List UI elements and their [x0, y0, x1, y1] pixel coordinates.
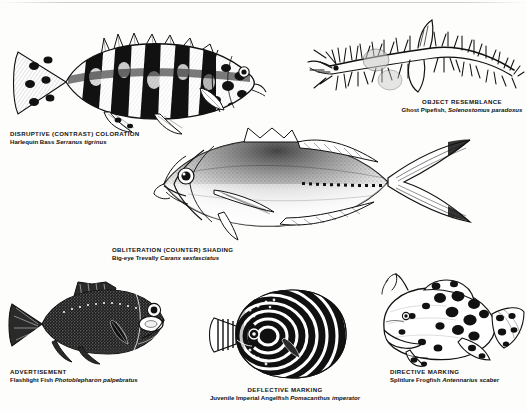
caption-species-pipefish: Ghost Pipefish, Solenostomus paradoxus: [400, 106, 524, 114]
figure-harlequin-bass: [4, 22, 272, 130]
caption-big-eye-trevally: OBLITERATION (COUNTER) SHADING Big-eye T…: [112, 246, 233, 262]
caption-title-frogfish: DIRECTIVE MARKING: [390, 368, 499, 376]
caption-title-angelfish: DEFLECTIVE MARKING: [190, 386, 380, 394]
caption-species-flashlight: Flashlight Fish Photoblepharon palpebrat…: [10, 376, 138, 384]
caption-species-angelfish: Juvenile Imperial Angelfish Pomacanthus …: [190, 394, 380, 402]
caption-flashlight-fish: ADVERTISEMENT Flashlight Fish Photobleph…: [10, 368, 138, 384]
caption-species-trevally: Big-eye Trevally Caranx sexfasciatus: [112, 254, 233, 262]
caption-harlequin-bass: DISRUPTIVE (CONTRAST) COLORATION Harlequ…: [10, 130, 140, 146]
caption-species-bass: Harlequin Bass Serranus tigrinus: [10, 138, 140, 146]
caption-species-frogfish: Splitlure Frogfish Antennarius scaber: [390, 376, 499, 384]
illustration-plate: DISRUPTIVE (CONTRAST) COLORATION Harlequ…: [0, 0, 527, 411]
figure-imperial-angelfish: [206, 288, 354, 380]
caption-title-pipefish: OBJECT RESEMBLANCE: [400, 98, 524, 106]
figure-flashlight-fish: [8, 282, 176, 366]
figure-ghost-pipefish: [306, 18, 524, 100]
caption-splitlure-frogfish: DIRECTIVE MARKING Splitlure Frogfish Ant…: [390, 368, 499, 384]
caption-title-flashlight: ADVERTISEMENT: [10, 368, 138, 376]
figure-splitlure-frogfish: [366, 272, 526, 368]
figure-big-eye-trevally: [152, 128, 488, 240]
plate-top-rule: [0, 2, 527, 3]
caption-title-bass: DISRUPTIVE (CONTRAST) COLORATION: [10, 130, 140, 138]
caption-title-trevally: OBLITERATION (COUNTER) SHADING: [112, 246, 233, 254]
caption-imperial-angelfish: DEFLECTIVE MARKING Juvenile Imperial Ang…: [190, 386, 380, 402]
caption-ghost-pipefish: OBJECT RESEMBLANCE Ghost Pipefish, Solen…: [400, 98, 524, 114]
